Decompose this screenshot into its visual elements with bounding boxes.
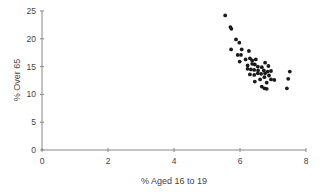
data-point [259, 72, 263, 76]
data-point [258, 78, 262, 82]
x-tick-label: 0 [40, 156, 45, 166]
data-point [253, 80, 257, 84]
y-tick-label: 25 [27, 6, 37, 16]
x-axis: 02468 [40, 148, 309, 166]
data-point [237, 41, 241, 45]
data-point [238, 60, 242, 64]
data-point [256, 65, 260, 69]
data-point [286, 77, 290, 81]
data-point [252, 68, 256, 72]
y-tick-label: 0 [31, 145, 36, 155]
data-point [239, 53, 243, 57]
y-tick-label: 20 [27, 34, 37, 44]
data-point [256, 71, 260, 75]
data-point [265, 87, 269, 91]
data-point [250, 59, 254, 63]
y-axis-title: % Over 65 [12, 59, 22, 102]
y-axis: 0510152025 [27, 6, 44, 155]
data-point [246, 67, 250, 71]
data-point [265, 81, 269, 85]
data-point [236, 53, 240, 57]
y-tick-label: 10 [27, 89, 37, 99]
data-point [269, 78, 273, 82]
data-point [260, 65, 264, 69]
x-axis-title: % Aged 16 to 19 [141, 176, 207, 186]
data-point [240, 48, 244, 52]
data-point [263, 61, 267, 65]
data-point [249, 68, 253, 72]
data-point [267, 74, 271, 78]
x-tick-label: 4 [172, 156, 177, 166]
data-point [252, 73, 256, 77]
data-point [229, 48, 233, 52]
scatter-chart: 0510152025 02468 % Aged 16 to 19 % Over … [0, 0, 324, 192]
data-point [254, 58, 258, 62]
data-point [248, 73, 252, 77]
data-point [269, 69, 273, 73]
x-tick-label: 6 [238, 156, 243, 166]
y-tick-label: 5 [31, 117, 36, 127]
data-point [247, 49, 251, 53]
data-point [263, 75, 267, 79]
data-point [234, 38, 238, 42]
data-point [263, 71, 267, 75]
data-point [285, 86, 289, 90]
data-point [244, 58, 248, 62]
data-points [223, 14, 291, 91]
x-tick-label: 2 [106, 156, 111, 166]
data-point [246, 64, 250, 68]
data-point [272, 78, 276, 82]
data-point [267, 64, 271, 68]
data-point [288, 70, 292, 74]
x-tick-label: 8 [304, 156, 309, 166]
y-tick-label: 15 [27, 62, 37, 72]
data-point [230, 27, 234, 31]
data-point [223, 14, 227, 18]
